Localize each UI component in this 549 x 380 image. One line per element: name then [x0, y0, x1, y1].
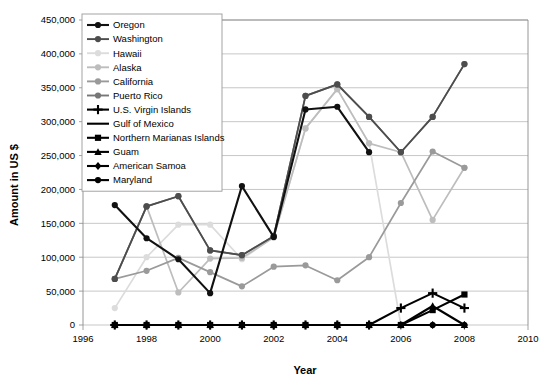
legend: OregonWashingtonHawaiiAlaskaCaliforniaPu… [82, 14, 225, 191]
legend-label: Hawaii [113, 48, 142, 59]
y-tick-label: 0 [70, 319, 75, 330]
y-tick-label: 450,000 [41, 14, 75, 25]
y-tick-label: 50,000 [46, 286, 75, 297]
legend-label: Washington [113, 33, 163, 44]
legend-label: Gulf of Mexico [113, 118, 174, 129]
y-tick-label: 150,000 [41, 218, 75, 229]
x-tick-label: 2002 [263, 333, 284, 344]
y-tick-label: 400,000 [41, 48, 75, 59]
line-chart: 050,000100,000150,000200,000250,000300,0… [0, 0, 549, 380]
chart-canvas: 050,000100,000150,000200,000250,000300,0… [0, 0, 549, 380]
legend-label: Puerto Rico [113, 90, 163, 101]
series-u-s-virgin-islands [110, 289, 469, 330]
series-maryland [112, 322, 468, 328]
x-tick-label: 2000 [200, 333, 221, 344]
x-tick-label: 1998 [136, 333, 157, 344]
legend-label: U.S. Virgin Islands [113, 104, 191, 115]
y-tick-label: 250,000 [41, 150, 75, 161]
legend-label: Maryland [113, 174, 152, 185]
x-tick-label: 2010 [517, 333, 538, 344]
legend-label: Guam [113, 146, 139, 157]
legend-label: California [113, 76, 154, 87]
y-axis-ticks: 050,000100,000150,000200,000250,000300,0… [41, 14, 75, 330]
series-northern-marianas-islands [112, 291, 468, 328]
x-tick-label: 2006 [390, 333, 411, 344]
y-tick-label: 200,000 [41, 184, 75, 195]
legend-label: Alaska [113, 62, 142, 73]
y-tick-label: 300,000 [41, 116, 75, 127]
x-tick-label: 1996 [72, 333, 93, 344]
legend-label: American Samoa [113, 160, 187, 171]
legend-label: Northern Marianas Islands [113, 132, 225, 143]
x-tick-label: 2004 [327, 333, 348, 344]
legend-label: Oregon [113, 19, 145, 30]
y-tick-label: 100,000 [41, 252, 75, 263]
y-tick-label: 350,000 [41, 82, 75, 93]
x-axis-title: Year [293, 364, 317, 376]
y-axis-title: Amount in US $ [8, 144, 20, 226]
x-tick-label: 2008 [454, 333, 475, 344]
